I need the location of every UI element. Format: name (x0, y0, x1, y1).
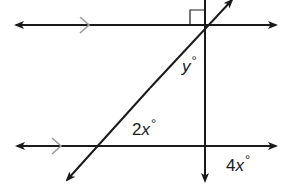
geometry-diagram: y° 2x° 4x° (0, 0, 281, 185)
right-angle-marker-icon (190, 10, 205, 25)
angle-label-2x: 2x° (132, 116, 156, 139)
angle-label-y: y° (181, 53, 197, 76)
transversal-line (67, 0, 232, 180)
angle-label-4x: 4x° (226, 152, 250, 175)
